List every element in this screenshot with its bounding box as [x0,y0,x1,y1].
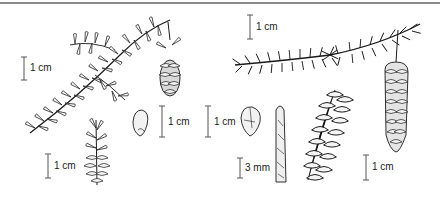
right-shoot-scale-bar [237,158,243,178]
right-closed-cone-drawing [385,30,408,152]
right-cone-scale-bar [363,155,369,180]
left-seed-scale-bar [159,106,165,137]
right-cone-scale-label: 1 cm [372,161,394,172]
left-pollen-scale-label: 1 cm [54,160,76,171]
right-seed-scale-label: 1 cm [214,116,236,127]
left-branch-scale-bar [21,57,27,80]
left-seed-scale-label: 1 cm [168,116,190,127]
right-seed-drawing [241,107,260,136]
left-branch-scale-label: 1 cm [30,62,52,73]
right-shoot-drawing [276,106,286,182]
left-branch-drawing [25,17,170,133]
right-open-cone-drawing [304,90,354,180]
right-branch-scale-label: 1 cm [256,21,278,32]
left-seed-drawing [133,110,148,136]
left-pollen-scale-bar [45,154,51,178]
left-pollen-cone-drawing [84,118,110,185]
right-shoot-scale-label: 3 mm [245,162,270,173]
right-branch-scale-bar [247,15,253,39]
right-seed-scale-bar [205,106,211,137]
